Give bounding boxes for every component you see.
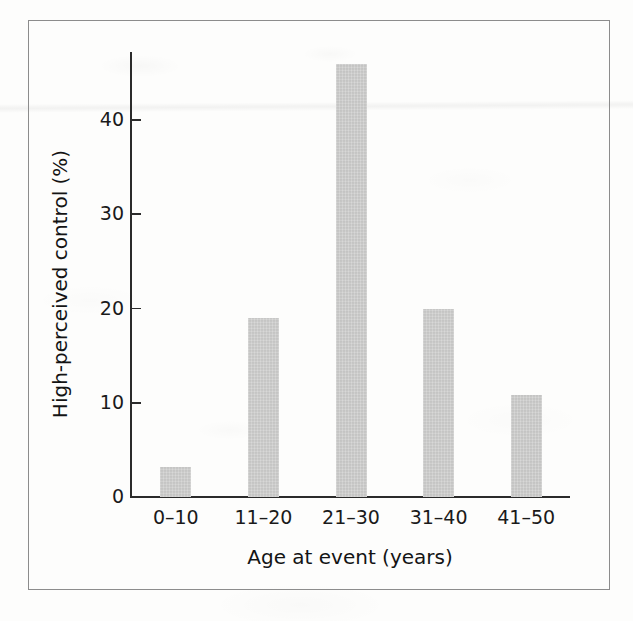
- y-axis-tick: [132, 402, 141, 404]
- y-axis-tick-label: 20: [86, 299, 124, 318]
- y-axis-tick-label: 40: [86, 110, 124, 129]
- y-axis-tick: [132, 213, 141, 215]
- bar: [511, 395, 542, 497]
- y-axis-tick-label: 30: [86, 204, 124, 223]
- x-axis-title: Age at event (years): [130, 545, 570, 569]
- bar: [160, 467, 191, 497]
- bar: [423, 309, 454, 498]
- y-axis-tick-labels: 010203040: [82, 0, 124, 621]
- x-axis-tick-label: 41–50: [466, 508, 586, 527]
- y-axis-title: High-perceived control (%): [48, 74, 72, 494]
- bar: [336, 64, 367, 497]
- y-axis-tick: [132, 308, 141, 310]
- y-axis-tick-label: 10: [86, 393, 124, 412]
- y-axis-tick: [132, 496, 141, 498]
- y-axis-tick-label: 0: [86, 487, 124, 506]
- bar-chart: 010203040 0–1011–2021–3031–4041–50 Age a…: [0, 0, 633, 621]
- y-axis-tick: [132, 119, 141, 121]
- scanned-page: 010203040 0–1011–2021–3031–4041–50 Age a…: [0, 0, 633, 621]
- bar: [248, 318, 279, 497]
